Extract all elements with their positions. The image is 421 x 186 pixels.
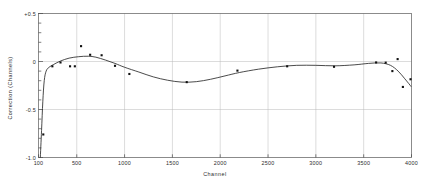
plot-frame bbox=[39, 14, 412, 158]
x-tick-label: 3000 bbox=[309, 160, 322, 166]
data-point bbox=[80, 45, 82, 47]
data-point bbox=[59, 61, 61, 63]
data-point bbox=[397, 58, 399, 60]
x-tick-label: 2000 bbox=[214, 160, 227, 166]
data-point bbox=[186, 81, 188, 83]
data-point bbox=[402, 86, 404, 88]
fitted-curve bbox=[40, 56, 411, 159]
data-point bbox=[69, 65, 71, 67]
x-tick-label: 1000 bbox=[118, 160, 131, 166]
y-axis-title: Correction (Channels) bbox=[7, 56, 13, 119]
data-point bbox=[101, 54, 103, 56]
y-tick-label: 0 bbox=[33, 59, 36, 65]
x-tick-label: 500 bbox=[72, 160, 82, 166]
data-point bbox=[286, 65, 288, 67]
figure-correction-vs-channel: 1005001000150020002500300035004000+0.50-… bbox=[0, 0, 421, 186]
data-point bbox=[89, 54, 91, 56]
x-tick-label: 2500 bbox=[262, 160, 275, 166]
axis-ticks bbox=[39, 14, 412, 158]
axis-tick-labels: 1005001000150020002500300035004000+0.50-… bbox=[24, 11, 418, 167]
data-point bbox=[375, 61, 377, 63]
x-tick-label: 100 bbox=[34, 160, 44, 166]
data-point bbox=[333, 66, 335, 68]
y-tick-label: +0.5 bbox=[24, 11, 36, 17]
curve-path bbox=[40, 56, 411, 159]
data-point bbox=[128, 73, 130, 75]
gridlines bbox=[39, 14, 412, 158]
data-point bbox=[409, 78, 411, 80]
data-point bbox=[74, 65, 76, 67]
data-point bbox=[391, 70, 393, 72]
data-point bbox=[114, 65, 116, 67]
y-tick-label: -0.5 bbox=[26, 107, 36, 113]
chart-canvas: 1005001000150020002500300035004000+0.50-… bbox=[0, 0, 421, 186]
data-point bbox=[236, 70, 238, 72]
data-point bbox=[385, 62, 387, 64]
data-points bbox=[42, 45, 411, 135]
data-point bbox=[42, 133, 44, 135]
data-point bbox=[51, 65, 53, 67]
x-axis-title: Channel bbox=[203, 171, 227, 177]
y-tick-label: -1.0 bbox=[26, 155, 36, 161]
x-tick-label: 3500 bbox=[357, 160, 370, 166]
x-tick-label: 1500 bbox=[166, 160, 179, 166]
x-tick-label: 4000 bbox=[405, 160, 418, 166]
